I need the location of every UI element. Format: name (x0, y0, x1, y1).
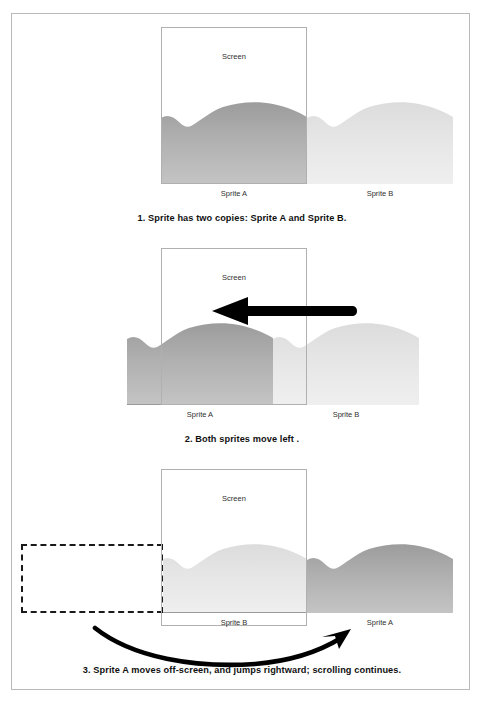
screen-viewport-2 (161, 248, 307, 405)
screen-viewport-3 (161, 469, 307, 626)
left-arrow-icon (212, 297, 357, 325)
panel-1: Screen Sprite A Sprite B 1. Sprite has t… (0, 0, 484, 230)
sprite-b-shape (307, 102, 453, 184)
screen-label-3: Screen (161, 494, 307, 503)
sprite-a-label-1: Sprite A (161, 189, 307, 198)
scrolling-diagram-figure: Screen Sprite A Sprite B 1. Sprite has t… (0, 0, 484, 702)
panel-2: Screen Sprite A Sprite B 2. Both sprites… (0, 221, 484, 451)
panel-2-left-arrow (212, 297, 357, 325)
sprite-b-label-2: Sprite B (273, 410, 419, 419)
panel-3: Screen Sprite B Sprite A 3. Sprite A mov… (0, 442, 484, 702)
screen-label-1: Screen (161, 52, 307, 61)
screen-label-2: Screen (161, 273, 307, 282)
old-sprite-a-placeholder (21, 544, 163, 613)
panel-3-curved-arrow (85, 624, 365, 669)
sprite-b-label-1: Sprite B (307, 189, 453, 198)
curved-arrow-shaft (95, 628, 341, 665)
sprite-a-label-2: Sprite A (127, 410, 273, 419)
sprite-a-shape (307, 544, 453, 613)
screen-viewport-1 (161, 27, 307, 184)
